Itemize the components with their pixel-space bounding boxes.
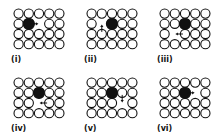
lattice-atom (24, 9, 33, 18)
lattice-atom (201, 40, 210, 49)
lattice-atom (97, 109, 106, 118)
lattice-atom (87, 109, 96, 118)
lattice-atom (45, 78, 54, 87)
lattice-atom (55, 78, 64, 87)
lattice-atom (14, 78, 23, 87)
lattice-atom (14, 29, 23, 38)
lattice-atom (160, 40, 169, 49)
lattice-atom (201, 78, 210, 87)
arrowhead-icon (100, 24, 103, 27)
lattice-atom (191, 19, 200, 28)
panel-ii: (ii) (73, 0, 146, 69)
lattice-atom (24, 98, 33, 107)
lattice-atom (24, 29, 33, 38)
lattice-atom (170, 98, 179, 107)
lattice-atom (128, 9, 137, 18)
lattice-atom (128, 88, 137, 97)
lattice-atom (55, 109, 64, 118)
lattice-atom (55, 98, 64, 107)
lattice-atom (160, 109, 169, 118)
lattice-atom (118, 40, 127, 49)
lattice-atom (97, 98, 106, 107)
lattice-atom (128, 29, 137, 38)
lattice-atom (45, 40, 54, 49)
lattice-atom (170, 19, 179, 28)
lattice-atom (107, 29, 116, 38)
lattice-atom (128, 109, 137, 118)
lattice-atom (97, 40, 106, 49)
lattice-atom (128, 98, 137, 107)
lattice-atom (107, 9, 116, 18)
lattice-atom (24, 40, 33, 49)
panel-vi: (vi) (146, 69, 219, 138)
lattice-atom (191, 40, 200, 49)
lattice-atom (201, 19, 210, 28)
lattice-atom (55, 88, 64, 97)
lattice-atom (118, 29, 127, 38)
lattice-atom (180, 9, 189, 18)
lattice-atom (191, 109, 200, 118)
lattice-atom (45, 88, 54, 97)
lattice-atom (14, 109, 23, 118)
lattice-atom (201, 109, 210, 118)
lattice-atom (180, 78, 189, 87)
lattice-atom (107, 98, 116, 107)
panel-v: (v) (73, 69, 146, 138)
lattice-atom (87, 78, 96, 87)
panel-iv: (iv) (0, 69, 73, 138)
lattice-atom (24, 109, 33, 118)
lattice-atom (24, 78, 33, 87)
lattice-atom (14, 9, 23, 18)
lattice-atom (97, 78, 106, 87)
lattice-atom (87, 88, 96, 97)
panel-i: (i) (0, 0, 73, 69)
lattice-atom (170, 78, 179, 87)
lattice-atom (14, 40, 23, 49)
lattice-atom (170, 9, 179, 18)
lattice-atom (97, 88, 106, 97)
lattice-atom (45, 29, 54, 38)
lattice-atom (180, 98, 189, 107)
lattice-atom (14, 98, 23, 107)
lattice-atom (191, 98, 200, 107)
lattice-atom (191, 78, 200, 87)
arrowhead-icon (175, 32, 178, 35)
lattice-atom (128, 19, 137, 28)
lattice-atom (118, 19, 127, 28)
lattice-atom (170, 40, 179, 49)
lattice-atom (45, 9, 54, 18)
lattice-atom (128, 78, 137, 87)
panel-label: (vi) (157, 124, 172, 133)
lattice-atom (118, 109, 127, 118)
lattice-atom (180, 109, 189, 118)
lattice-atom (24, 88, 33, 97)
lattice-atom (191, 29, 200, 38)
solute-atom (179, 18, 190, 29)
lattice-atom (128, 40, 137, 49)
panel-label: (iii) (157, 55, 173, 64)
lattice-atom (34, 78, 43, 87)
lattice-atom (107, 40, 116, 49)
lattice-atom (45, 19, 54, 28)
lattice-atom (55, 40, 64, 49)
lattice-atom (55, 19, 64, 28)
lattice-atom (55, 29, 64, 38)
lattice-atom (160, 88, 169, 97)
lattice-atom (201, 98, 210, 107)
lattice-atom (180, 40, 189, 49)
lattice-atom (160, 9, 169, 18)
lattice-atom (87, 40, 96, 49)
lattice-atom (160, 78, 169, 87)
lattice-atom (34, 9, 43, 18)
lattice-atom (201, 9, 210, 18)
lattice-atom (170, 88, 179, 97)
lattice-atom (14, 19, 23, 28)
solute-atom (33, 87, 44, 98)
lattice-atom (118, 9, 127, 18)
lattice-atom (87, 29, 96, 38)
panel-label: (ii) (84, 55, 97, 64)
lattice-atom (201, 29, 210, 38)
solute-atom (106, 87, 117, 98)
lattice-atom (191, 9, 200, 18)
panel-label: (i) (11, 55, 21, 64)
